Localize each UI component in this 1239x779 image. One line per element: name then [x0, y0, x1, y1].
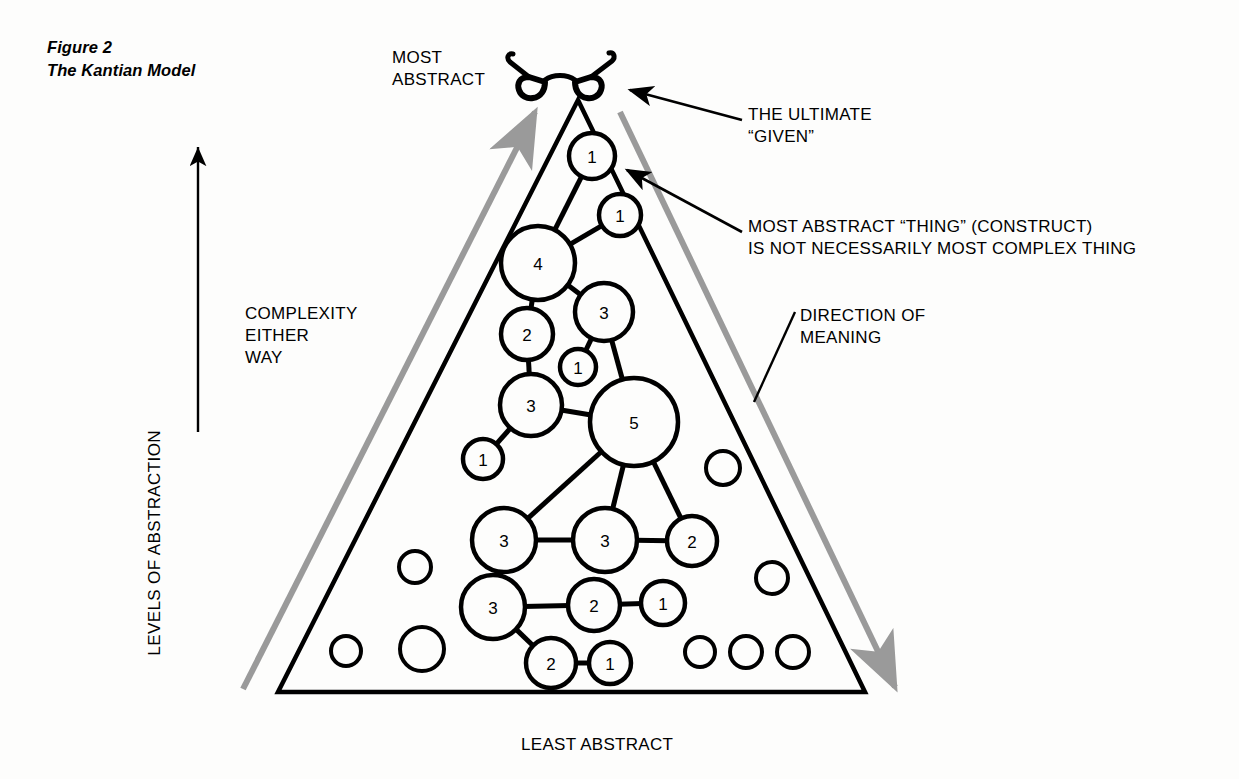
unlabeled-node: [777, 636, 809, 668]
node-label: 2: [589, 597, 598, 616]
network-node: 3: [472, 508, 536, 572]
network-node: 1: [560, 349, 596, 385]
node-label: 1: [573, 359, 582, 378]
network-edge: [611, 338, 623, 381]
network-node: 1: [641, 581, 685, 625]
node-label: 1: [587, 148, 596, 167]
network-node: 2: [526, 638, 576, 688]
network-node: 2: [568, 579, 620, 631]
figure-page: Figure 2 The Kantian Model MOST ABSTRACT…: [0, 0, 1239, 779]
network-edge: [652, 460, 682, 521]
unlabeled-node: [756, 562, 788, 594]
node-label: 1: [605, 655, 614, 674]
labeled-nodes: 11432131533232121: [461, 133, 717, 688]
annotation-leader-lines: [627, 90, 795, 402]
node-label: 2: [522, 326, 531, 345]
network-edge: [568, 225, 603, 246]
network-node: 3: [500, 374, 562, 436]
node-label: 2: [687, 533, 696, 552]
network-node: 4: [501, 226, 575, 300]
node-label: 4: [533, 255, 542, 274]
kantian-model-diagram: 11432131533232121: [0, 0, 1239, 779]
unlabeled-node: [331, 636, 361, 666]
node-label: 1: [615, 207, 624, 226]
unlabeled-node: [399, 551, 431, 583]
network-edge: [612, 463, 624, 511]
network-node: 3: [575, 283, 633, 341]
network-node: 1: [463, 439, 503, 479]
network-node: 3: [461, 575, 525, 639]
network-node: 2: [501, 308, 553, 360]
network-node: 1: [599, 194, 641, 236]
unlabeled-node: [730, 636, 762, 668]
node-label: 2: [546, 655, 555, 674]
network-node: 3: [573, 508, 637, 572]
unlabeled-nodes: [331, 451, 809, 671]
network-node: 1: [589, 642, 631, 684]
network-edge: [560, 410, 593, 415]
network-edge: [523, 605, 570, 606]
unlabeled-node: [400, 627, 444, 671]
node-label: 3: [526, 397, 535, 416]
node-label: 3: [488, 599, 497, 618]
node-label: 3: [499, 532, 508, 551]
network-edge: [554, 175, 583, 232]
node-label: 5: [629, 414, 638, 433]
node-label: 1: [478, 451, 487, 470]
node-label: 3: [599, 304, 608, 323]
unlabeled-node: [685, 637, 715, 667]
eyeglasses-icon: [508, 53, 614, 98]
network-node: 5: [590, 378, 678, 466]
network-node: 2: [667, 516, 717, 566]
node-label: 3: [600, 532, 609, 551]
node-label: 1: [658, 595, 667, 614]
unlabeled-node: [706, 451, 740, 485]
network-node: 1: [569, 133, 615, 179]
